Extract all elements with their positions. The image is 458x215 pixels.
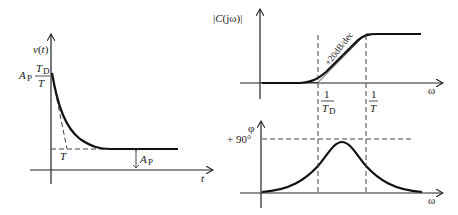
initial-value-label: A P T D T — [18, 62, 50, 89]
svg-text:T: T — [36, 62, 43, 74]
left-y-label: v(t) — [33, 43, 49, 56]
decay-curve — [52, 73, 178, 149]
svg-text:D: D — [43, 66, 50, 76]
svg-text:P: P — [27, 73, 32, 83]
phase-curve — [262, 142, 422, 192]
svg-text:A: A — [139, 153, 147, 165]
svg-text:T: T — [38, 77, 45, 89]
svg-text:T: T — [370, 102, 377, 114]
phase-x-label: ω — [428, 194, 435, 206]
corner-2-label: 1 T — [369, 88, 378, 114]
final-value-label: A P — [139, 153, 153, 167]
svg-text:D: D — [329, 106, 336, 116]
svg-text:T: T — [322, 102, 329, 114]
svg-text:A: A — [18, 69, 26, 81]
svg-text:1: 1 — [371, 88, 377, 100]
time-constant-label: T — [60, 150, 67, 162]
magnitude-x-label: ω — [428, 84, 435, 96]
corner-1-label: 1 T D — [321, 88, 336, 116]
phase-max-label: + 90° — [227, 133, 251, 145]
svg-text:1: 1 — [324, 88, 330, 100]
left-x-label: t — [201, 172, 205, 184]
left-time-plot — [30, 34, 213, 184]
magnitude-plot — [240, 9, 443, 99]
phase-plot — [240, 121, 443, 208]
magnitude-y-label: |C(jω)| — [213, 12, 242, 25]
diagram-canvas: v(t) A P T D T T A P t |C(jω)| +20dB/dec… — [0, 0, 458, 215]
svg-text:P: P — [148, 157, 153, 167]
